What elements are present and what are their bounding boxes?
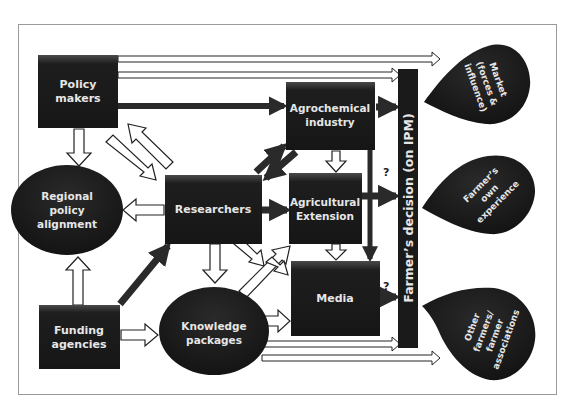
node-media: Media bbox=[291, 261, 380, 336]
regional-line2: policy bbox=[50, 204, 85, 216]
node-agrochemical-industry: Agrochemical industry bbox=[286, 82, 375, 150]
regional-line1: Regional bbox=[41, 190, 93, 202]
question-mark-media: ? bbox=[383, 280, 389, 293]
node-policy-makers: Policy makers bbox=[38, 55, 118, 128]
extension-line1: Agricultural bbox=[290, 196, 360, 208]
agrochemical-line2: industry bbox=[305, 116, 355, 128]
funding-line2: agencies bbox=[52, 338, 107, 351]
policy-makers-line1: Policy bbox=[60, 78, 97, 91]
researchers-label: Researchers bbox=[175, 203, 252, 216]
node-knowledge-packages: Knowledge packages bbox=[159, 287, 269, 375]
media-label: Media bbox=[316, 292, 353, 305]
extension-line2: Extension bbox=[296, 210, 354, 222]
policy-makers-line2: makers bbox=[55, 92, 101, 105]
knowledge-line1: Knowledge bbox=[181, 320, 246, 332]
regional-line3: alignment bbox=[37, 218, 97, 230]
node-researchers: Researchers bbox=[165, 175, 262, 244]
node-regional-policy: Regional policy alignment bbox=[11, 165, 123, 255]
node-agricultural-extension: Agricultural Extension bbox=[289, 173, 362, 244]
knowledge-line2: packages bbox=[186, 334, 242, 346]
question-mark-extension: ? bbox=[383, 166, 389, 179]
node-funding-agencies: Funding agencies bbox=[39, 305, 120, 369]
agrochemical-line1: Agrochemical bbox=[290, 102, 370, 114]
ipm-decision-diagram: Policy makers Regional policy alignment … bbox=[0, 0, 574, 412]
funding-line1: Funding bbox=[54, 324, 104, 337]
node-farmers-decision: Farmer’s decision (on IPM) bbox=[398, 69, 418, 348]
decision-label: Farmer’s decision (on IPM) bbox=[401, 113, 416, 302]
